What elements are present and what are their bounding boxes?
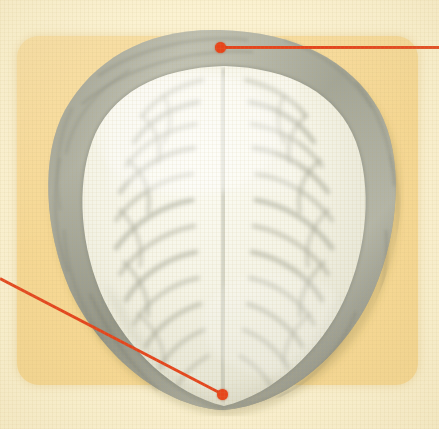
brain-highlight-patch: [108, 72, 298, 192]
leader-line-bottom-stroke: [0, 279, 222, 395]
figure-stage: [0, 0, 439, 429]
annotation-leader-line-top: [220, 46, 439, 49]
annotation-marker-dot-bottom[interactable]: [217, 389, 228, 400]
annotation-leader-line-bottom: [0, 277, 260, 399]
annotation-marker-dot-top[interactable]: [215, 42, 226, 53]
